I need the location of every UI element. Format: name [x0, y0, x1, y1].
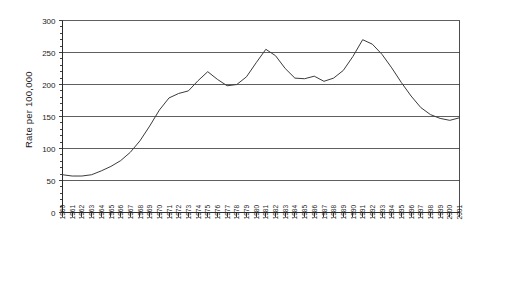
x-tick-label: 1996 — [408, 204, 415, 219]
x-tick-label: 1985 — [301, 204, 308, 219]
x-tick-label: 1998 — [427, 204, 434, 219]
x-tick-label: 1982 — [272, 204, 279, 219]
y-tick-label: 0 — [51, 209, 56, 218]
x-tick-label: 1984 — [291, 204, 298, 219]
x-tick-label: 1976 — [214, 204, 221, 219]
x-tick-label: 1995 — [398, 204, 405, 219]
x-tick-label: 2001 — [456, 204, 463, 219]
x-tick-label: 1988 — [330, 204, 337, 219]
x-tick-label: 1992 — [369, 204, 376, 219]
x-tick-label: 1983 — [282, 204, 289, 219]
y-tick-label: 200 — [42, 81, 56, 90]
x-tick-label: 1972 — [175, 204, 182, 219]
y-tick-label: 150 — [42, 113, 56, 122]
x-tick-label: 1978 — [233, 204, 240, 219]
x-tick-label: 1965 — [108, 204, 115, 219]
gridlines — [63, 21, 460, 213]
x-tick-label: 1981 — [262, 204, 269, 219]
chart-canvas: Rate per 100,000 050100150200250300 1960… — [0, 0, 519, 281]
x-tick-label: 1993 — [379, 204, 386, 219]
y-tick-label: 250 — [42, 49, 56, 58]
x-tick-label: 1969 — [146, 204, 153, 219]
y-tick-label: 100 — [42, 145, 56, 154]
x-tick-label: 1967 — [127, 204, 134, 219]
data-series-line — [63, 40, 460, 176]
y-tick-label: 50 — [47, 177, 56, 186]
x-tick-label: 1987 — [321, 204, 328, 219]
x-tick-label: 1961 — [69, 204, 76, 219]
x-tick-label: 1962 — [78, 204, 85, 219]
x-tick-label: 1997 — [417, 204, 424, 219]
y-axis-title: Rate per 100,000 — [23, 71, 34, 148]
x-tick-label: 1974 — [195, 204, 202, 219]
x-tick-label: 1971 — [166, 204, 173, 219]
x-tick-label: 1968 — [137, 204, 144, 219]
x-tick-label: 1973 — [185, 204, 192, 219]
x-tick-label: 1963 — [88, 204, 95, 219]
line-chart: Rate per 100,000 050100150200250300 1960… — [0, 0, 519, 281]
x-tick-label: 1991 — [359, 204, 366, 219]
x-tick-label: 1989 — [340, 204, 347, 219]
x-tick-label: 1975 — [204, 204, 211, 219]
x-tick-label: 1977 — [224, 204, 231, 219]
y-tick-label: 300 — [42, 17, 56, 26]
x-tick-label: 2000 — [446, 204, 453, 219]
x-tick-label: 1966 — [117, 204, 124, 219]
x-tick-label: 1986 — [311, 204, 318, 219]
x-tick-label: 1960 — [59, 204, 66, 219]
x-tick-label: 1964 — [98, 204, 105, 219]
x-tick-label: 1994 — [388, 204, 395, 219]
x-tick-label: 1999 — [437, 204, 444, 219]
y-axis-ticks: 050100150200250300 — [42, 17, 62, 218]
x-tick-label: 1979 — [243, 204, 250, 219]
x-tick-label: 1980 — [253, 204, 260, 219]
x-tick-label: 1990 — [350, 204, 357, 219]
x-tick-label: 1970 — [156, 204, 163, 219]
